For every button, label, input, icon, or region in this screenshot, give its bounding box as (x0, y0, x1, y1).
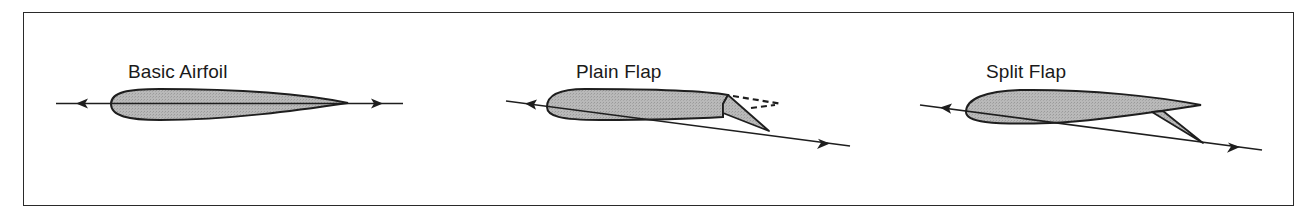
basic-airfoil-panel (56, 89, 403, 120)
split-flap-panel (920, 90, 1262, 153)
flap-neutral-position-dashed-lower (751, 105, 775, 108)
plain-flap-panel (506, 89, 850, 149)
flap-types-diagram (0, 0, 1315, 213)
plain-flap-deflected (723, 95, 769, 131)
arrow-right-icon (817, 139, 830, 149)
basic-airfoil-label: Basic Airfoil (128, 62, 228, 81)
arrow-right-icon (1227, 143, 1240, 153)
split-flap-label: Split Flap (986, 62, 1066, 81)
basic-airfoil-shape (111, 89, 348, 120)
plain-flap-label: Plain Flap (576, 62, 662, 81)
flap-neutral-position-dashed (733, 96, 782, 104)
plain-flap-main-body (547, 89, 728, 120)
